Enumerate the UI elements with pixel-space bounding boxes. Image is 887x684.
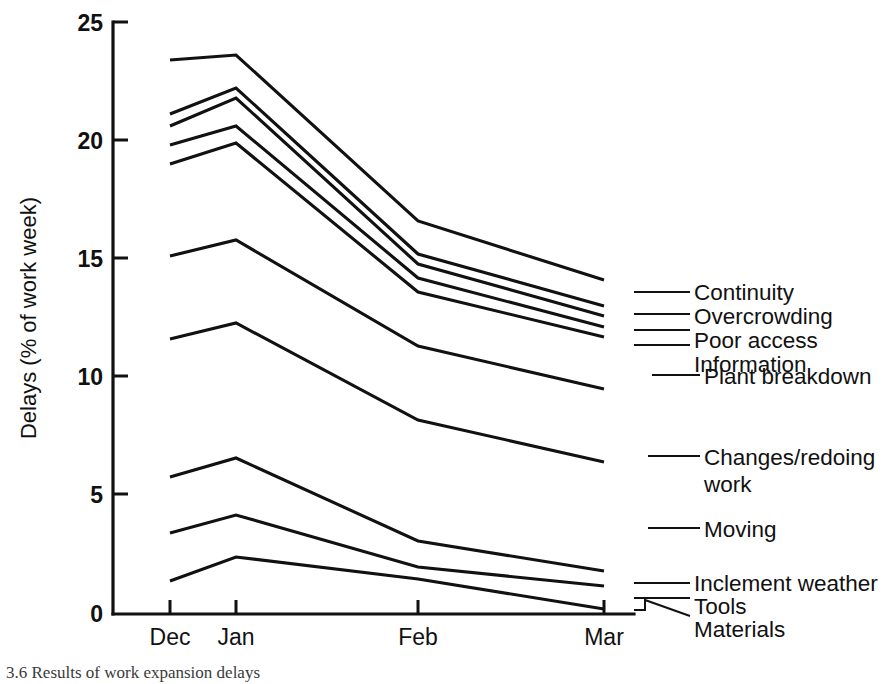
y-axis-title: Delays (% of work week) xyxy=(16,197,41,439)
y-tick-label-10: 10 xyxy=(77,364,103,390)
legend-label-changes-redoing-work: work xyxy=(703,472,752,497)
y-tick-label-5: 5 xyxy=(90,482,103,508)
legend-label-changes-redoing: Changes/redoing xyxy=(704,445,875,470)
legend-label-overcrowding: Overcrowding xyxy=(694,304,833,329)
series-lines xyxy=(170,55,604,609)
line-chart: 25 20 15 10 5 0 Dec Jan Feb Mar Delays (… xyxy=(0,0,887,684)
legend-label-poor-access: Poor access xyxy=(694,328,818,353)
legend-leader-lines xyxy=(634,292,700,616)
series-line-poor-access xyxy=(170,98,604,316)
y-tick-label-20: 20 xyxy=(77,128,103,154)
axes xyxy=(113,22,634,614)
legend-label-continuity: Continuity xyxy=(694,280,795,305)
x-tick-label-feb: Feb xyxy=(398,624,438,650)
leader-line-materials xyxy=(634,600,690,616)
y-tick-labels: 25 20 15 10 5 0 xyxy=(77,10,103,627)
figure-container: 25 20 15 10 5 0 Dec Jan Feb Mar Delays (… xyxy=(0,0,887,684)
x-tick-label-dec: Dec xyxy=(150,624,191,650)
series-line-moving xyxy=(170,323,604,462)
legend-label-moving: Moving xyxy=(704,517,777,542)
legend-label-materials: Materials xyxy=(694,617,785,642)
y-tick-label-0: 0 xyxy=(90,601,103,627)
legend-label-inclement-weather: Inclement weather xyxy=(694,571,878,596)
figure-caption: 3.6 Results of work expansion delays xyxy=(6,663,706,684)
legend-label-plant-breakdown: Plant breakdown xyxy=(704,364,872,389)
x-tick-label-jan: Jan xyxy=(217,624,254,650)
y-tick-label-25: 25 xyxy=(77,10,103,36)
series-line-overcrowding xyxy=(170,88,604,306)
legend-label-tools: Tools xyxy=(694,594,747,619)
x-tick-labels: Dec Jan Feb Mar xyxy=(150,624,625,650)
x-tick-label-mar: Mar xyxy=(584,624,624,650)
y-tick-label-15: 15 xyxy=(77,246,103,272)
series-line-changes-redoing-work xyxy=(170,240,604,389)
legend-labels: Continuity Overcrowding Poor access Info… xyxy=(694,280,878,642)
